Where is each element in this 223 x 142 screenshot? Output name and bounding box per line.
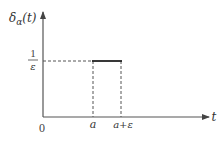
origin-label: 0 (39, 121, 45, 135)
x-tick-a: a (90, 118, 97, 131)
pulse-diagram: δα(t) 1 ε 0 a a+ε t (0, 0, 223, 142)
y-axis-label: δα(t) (9, 11, 37, 27)
y-label-arg: (t) (22, 11, 37, 25)
x-axis-label: t (212, 110, 217, 124)
y-tick-denominator: ε (30, 61, 35, 72)
y-tick-numerator: 1 (30, 47, 36, 59)
y-label-base: δ (9, 11, 16, 25)
x-tick-a-eps: a+ε (113, 119, 133, 130)
